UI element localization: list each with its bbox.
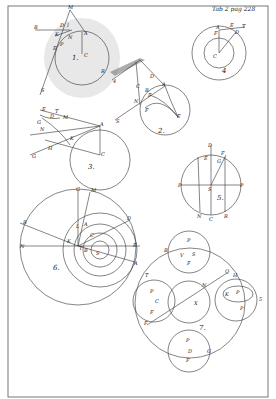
svg-text:P: P [239, 182, 244, 188]
svg-text:E: E [41, 106, 46, 112]
svg-text:P: P [149, 288, 154, 294]
svg-text:G: G [32, 153, 36, 159]
svg-text:H: H [47, 145, 53, 151]
svg-text:N: N [201, 282, 207, 288]
svg-text:E: E [52, 45, 57, 51]
svg-text:D: D [187, 348, 192, 354]
figure-6: G M R N L A D K T B S C E A 6. [19, 186, 140, 305]
svg-text:E: E [132, 242, 137, 248]
figure-7: P B V S F T Q H P C F N X K P P F P D F … [133, 231, 262, 372]
svg-text:P: P [177, 182, 182, 188]
svg-text:V: V [180, 252, 185, 258]
svg-text:C: C [101, 151, 105, 157]
svg-text:C: C [90, 232, 94, 238]
svg-text:R: R [100, 68, 105, 74]
svg-text:D: D [59, 22, 64, 28]
svg-text:P: P [185, 337, 190, 343]
figure-2: D A C B F N F E S 4 2. [110, 58, 190, 135]
svg-text:E: E [229, 22, 234, 28]
svg-text:C: C [155, 298, 159, 304]
svg-text:K: K [54, 31, 59, 37]
svg-text:P: P [59, 41, 64, 47]
svg-text:S: S [116, 118, 120, 124]
svg-text:B: B [163, 247, 168, 253]
svg-text:R: R [22, 219, 27, 225]
svg-text:K: K [66, 238, 71, 244]
svg-text:D: D [234, 29, 239, 35]
svg-text:P: P [235, 289, 240, 295]
svg-text:F: F [147, 92, 152, 98]
svg-text:C: C [136, 83, 140, 89]
figure-1-number: 1. [72, 54, 79, 62]
svg-text:G: G [76, 186, 80, 192]
svg-text:S: S [41, 87, 45, 93]
svg-text:F: F [213, 30, 218, 36]
svg-text:F: F [144, 107, 149, 113]
svg-text:L: L [75, 223, 80, 229]
svg-text:G: G [37, 119, 41, 125]
svg-text:D: D [126, 215, 131, 221]
svg-text:F: F [143, 320, 148, 326]
svg-text:5: 5 [259, 296, 262, 302]
svg-text:B: B [33, 24, 38, 30]
figure-7-number: 7. [199, 324, 206, 332]
svg-text:T: T [145, 272, 149, 278]
svg-text:S: S [96, 250, 100, 256]
svg-text:G: G [217, 158, 221, 164]
svg-text:R: R [223, 213, 228, 219]
svg-text:C: C [213, 53, 217, 59]
svg-text:P: P [186, 237, 191, 243]
svg-text:A: A [161, 81, 166, 87]
svg-text:S: S [208, 186, 212, 192]
svg-text:S: S [192, 251, 196, 257]
svg-text:M: M [90, 187, 97, 193]
svg-text:N: N [196, 213, 202, 219]
svg-text:G: G [207, 348, 211, 354]
svg-text:F: F [220, 150, 225, 156]
svg-text:C: C [84, 52, 88, 58]
figure-3-number: 3. [88, 163, 95, 171]
svg-text:F: F [186, 260, 191, 266]
svg-text:H: H [232, 272, 238, 278]
svg-text:A: A [83, 30, 88, 36]
svg-text:X: X [193, 300, 198, 306]
svg-text:4: 4 [112, 78, 116, 84]
svg-text:N: N [39, 126, 45, 132]
figure-4-number: 4 [221, 67, 226, 75]
svg-text:T: T [242, 23, 246, 29]
figure-2-number: 2. [157, 127, 165, 135]
figure-3: E T D M G N K H G A C 3. [30, 106, 130, 190]
svg-text:N: N [133, 98, 139, 104]
svg-text:M: M [67, 4, 74, 10]
svg-text:E: E [203, 155, 208, 161]
plate-header: Tab 2 pag 228 [212, 5, 255, 13]
figure-6-number: 6. [53, 264, 60, 272]
svg-text:A: A [133, 260, 138, 266]
svg-text:D: D [49, 113, 54, 119]
figure-4: A E T D F C 4 [192, 22, 246, 80]
figure-5: D E F G P P S N C R 5. [177, 142, 244, 222]
svg-text:P: P [239, 305, 244, 311]
svg-text:K: K [224, 291, 229, 297]
svg-text:A: A [83, 221, 88, 227]
engraved-plate: Tab 2 pag 228 M B D I K N A E P C R S 1.… [0, 0, 276, 399]
svg-text:N: N [67, 34, 73, 40]
svg-text:T: T [55, 108, 59, 114]
svg-text:N: N [19, 243, 25, 249]
svg-text:Q: Q [225, 268, 229, 274]
figure-1: M B D I K N A E P C R S 1. [33, 4, 120, 98]
svg-text:D: D [149, 73, 154, 79]
svg-text:K: K [69, 135, 74, 141]
figure-5-number: 5. [217, 194, 224, 202]
svg-text:F: F [149, 309, 154, 315]
svg-text:D: D [207, 142, 212, 148]
svg-text:C: C [209, 216, 213, 222]
svg-text:F: F [185, 357, 190, 363]
svg-text:E: E [176, 113, 181, 119]
svg-text:B: B [83, 247, 88, 253]
svg-text:A: A [99, 121, 104, 127]
svg-text:M: M [62, 114, 69, 120]
